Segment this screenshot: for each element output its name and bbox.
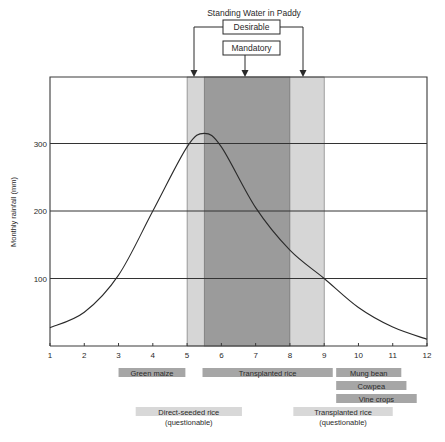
rainfall-chart: Standing Water in Paddy 100200300 123456… <box>0 0 445 442</box>
desirable-left-arrow-line <box>194 27 223 75</box>
desirable-right-arrow-line <box>280 27 303 75</box>
y-axis-label: Monthly rainfall (mm) <box>9 176 18 247</box>
crop-label: Mung bean <box>350 369 388 378</box>
y-tick-label: 200 <box>34 207 48 216</box>
x-tick-label: 4 <box>151 351 156 360</box>
mandatory-label: Mandatory <box>231 43 272 53</box>
crop-bar: Direct-seeded rice(questionable) <box>136 407 242 427</box>
y-tick-label: 300 <box>34 140 48 149</box>
x-tick-label: 5 <box>185 351 190 360</box>
x-tick-label: 10 <box>354 351 363 360</box>
crop-calendar: Green maizeTransplanted riceMung beanCow… <box>119 368 417 427</box>
x-tick-label: 1 <box>48 351 53 360</box>
x-tick-label: 11 <box>389 351 398 360</box>
crop-bar: Mung bean <box>336 368 401 378</box>
crop-label: Direct-seeded rice <box>158 408 219 417</box>
x-tick-label: 12 <box>423 351 432 360</box>
crop-label: Cowpea <box>358 382 386 391</box>
standing-water-annotation: Desirable Mandatory <box>191 20 307 77</box>
crop-label: Green maize <box>130 369 173 378</box>
arrow-down-icon <box>242 70 249 77</box>
desirable-label: Desirable <box>234 22 270 32</box>
chart-header: Standing Water in Paddy <box>207 8 301 18</box>
arrow-down-icon <box>300 70 307 77</box>
x-tick-label: 6 <box>219 351 224 360</box>
crop-sublabel: (questionable) <box>165 418 213 427</box>
x-tick-label: 9 <box>322 351 327 360</box>
crop-label: Vine crops <box>359 395 395 404</box>
crop-sublabel: (questionable) <box>319 418 367 427</box>
crop-bar: Vine crops <box>336 394 417 404</box>
y-tick-label: 100 <box>34 275 48 284</box>
crop-label: Transplanted rice <box>314 408 372 417</box>
x-tick-label: 8 <box>288 351 293 360</box>
x-tick-label: 7 <box>253 351 258 360</box>
x-tick-label: 3 <box>116 351 121 360</box>
crop-label: Transplanted rice <box>239 369 297 378</box>
x-tick-label: 2 <box>82 351 87 360</box>
arrow-down-icon <box>191 70 198 77</box>
crop-bar: Transplanted rice <box>203 368 333 378</box>
crop-bar: Green maize <box>119 368 186 378</box>
crop-bar: Cowpea <box>336 381 406 391</box>
crop-bar: Transplanted rice(questionable) <box>293 407 392 427</box>
